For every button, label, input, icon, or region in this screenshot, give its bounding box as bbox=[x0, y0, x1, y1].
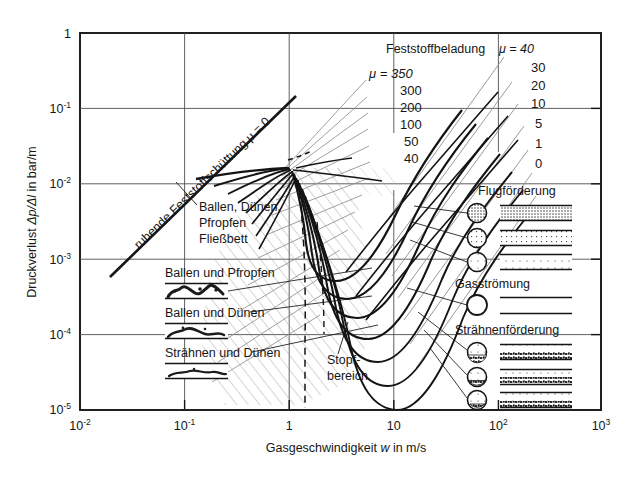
loading-title-group: Feststoffbeladung μ = 40 bbox=[386, 42, 534, 56]
y-tick-1: 10-1 bbox=[50, 100, 72, 116]
pipe-strip-str-3 bbox=[500, 392, 572, 408]
x-axis-title: Gasgeschwindigkeit w in m/s bbox=[266, 441, 427, 455]
pipe-icon-straehnen-duenen bbox=[165, 363, 228, 379]
plug-zone-line-1: bereich bbox=[327, 369, 368, 383]
regime-center-line-1: Pfropfen bbox=[199, 216, 246, 230]
mu-right-6: 0 bbox=[535, 156, 542, 171]
mu-right-1: 30 bbox=[531, 60, 545, 75]
y-tick-3: 10-3 bbox=[50, 251, 72, 267]
zenz-diagram: 1 10-1 10-2 10-3 10-4 10-5 10-2 10-1 1 1… bbox=[0, 0, 644, 477]
y-axis-title: Druckverlust Δp/Δl in bar/m bbox=[25, 146, 39, 298]
y-tick-5: 10-5 bbox=[50, 401, 72, 417]
mu-left-eq: μ = 350 bbox=[368, 66, 413, 81]
y-axis-tick-labels: 1 10-1 10-2 10-3 10-4 10-5 bbox=[50, 27, 72, 417]
pipe-icon-ballen-duenen bbox=[165, 323, 228, 339]
gas-flow-label: Gasströmung bbox=[455, 277, 530, 291]
pipe-strip-flug-2 bbox=[500, 230, 572, 246]
mu-left-3: 100 bbox=[400, 117, 422, 132]
pipe-strip-flug-1 bbox=[500, 205, 572, 221]
pipe-strip-str-2 bbox=[500, 369, 572, 385]
mu-left-4: 50 bbox=[404, 134, 418, 149]
x-axis-tick-labels: 10-2 10-1 1 10 102 103 bbox=[69, 417, 610, 433]
x-tick-2: 1 bbox=[286, 419, 293, 433]
loading-title-mu: μ = 40 bbox=[498, 42, 534, 56]
mu-left-1: 300 bbox=[400, 83, 422, 98]
left-regime-label-1: Ballen und Dünen bbox=[165, 306, 264, 320]
x-tick-0: 10-2 bbox=[69, 417, 91, 433]
y-tick-2: 10-2 bbox=[50, 175, 72, 191]
regime-center-line-0: Ballen, Dünen, bbox=[199, 200, 281, 214]
mu-right-2: 20 bbox=[531, 78, 545, 93]
mu-right-5: 1 bbox=[535, 136, 542, 151]
x-tick-3: 10 bbox=[387, 419, 401, 433]
x-tick-5: 103 bbox=[592, 417, 611, 433]
left-regime-label-0: Ballen und Pfropfen bbox=[165, 266, 275, 280]
left-regime-label-2: Strähnen und Dünen bbox=[165, 346, 280, 360]
x-tick-4: 102 bbox=[489, 417, 508, 433]
mu-right-4: 5 bbox=[535, 116, 542, 131]
mu-right-3: 10 bbox=[531, 96, 545, 111]
x-tick-1: 10-1 bbox=[174, 417, 196, 433]
mu-left-5: 40 bbox=[404, 151, 418, 166]
plug-zone-line-0: Stopf- bbox=[327, 353, 360, 367]
pipe-icon-ballen-pfropfen bbox=[165, 283, 228, 299]
dilute-phase-label: Flugförderung bbox=[478, 184, 556, 198]
y-tick-0: 1 bbox=[64, 27, 71, 41]
mu-left-2: 200 bbox=[400, 100, 422, 115]
loading-title: Feststoffbeladung bbox=[386, 42, 485, 56]
pipe-strip-str-1 bbox=[500, 344, 572, 360]
regime-center-line-2: Fließbett bbox=[199, 232, 248, 246]
figure-root: 1 10-1 10-2 10-3 10-4 10-5 10-2 10-1 1 1… bbox=[0, 0, 644, 477]
pipe-strip-flug-3 bbox=[500, 254, 572, 270]
strand-conveying-label: Strähnenförderung bbox=[455, 323, 559, 337]
y-tick-4: 10-4 bbox=[50, 326, 72, 342]
